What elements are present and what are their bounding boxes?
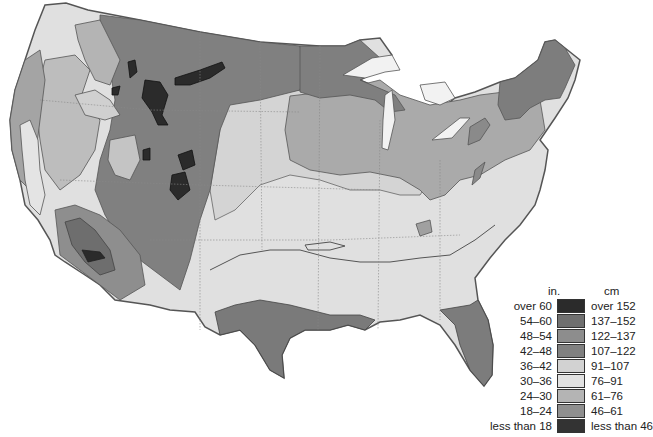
legend-swatch xyxy=(557,344,585,358)
legend-cm-label: 76–91 xyxy=(591,374,623,389)
legend-swatch xyxy=(557,374,585,388)
legend-swatch xyxy=(557,389,585,403)
legend-header-cm: cm xyxy=(604,285,619,298)
legend-cm-label: 122–137 xyxy=(591,329,636,344)
legend-in-label: 24–30 xyxy=(520,389,552,404)
legend-in-label: 54–60 xyxy=(520,314,552,329)
legend-swatch xyxy=(557,299,585,313)
legend-in-label: less than 18 xyxy=(490,419,552,434)
legend-swatch xyxy=(557,314,585,328)
legend-cm-label: over 152 xyxy=(591,299,636,314)
legend-cm-label: 46–61 xyxy=(591,404,623,419)
legend-row: 36–42 91–107 xyxy=(494,359,651,374)
legend-in-label: over 60 xyxy=(514,299,552,314)
legend-header-in: in. xyxy=(548,285,560,298)
legend-swatch xyxy=(557,359,585,373)
legend-in-label: 36–42 xyxy=(520,359,552,374)
legend-row: 54–60 137–152 xyxy=(494,314,651,329)
legend-row: 48–54 122–137 xyxy=(494,329,651,344)
legend-row: over 60 over 152 xyxy=(494,299,651,314)
legend-row: 30–36 76–91 xyxy=(494,374,651,389)
legend-cm-label: less than 46 xyxy=(591,419,653,434)
legend: in. cm over 60 over 152 54–60 137–152 48… xyxy=(494,285,651,437)
legend-row: 24–30 61–76 xyxy=(494,389,651,404)
zone-rockies-dark-6 xyxy=(143,148,150,160)
legend-cm-label: 107–122 xyxy=(591,344,636,359)
legend-row: less than 18 less than 46 xyxy=(494,419,651,434)
legend-in-label: 48–54 xyxy=(520,329,552,344)
legend-in-label: 18–24 xyxy=(520,404,552,419)
legend-cm-label: 91–107 xyxy=(591,359,629,374)
legend-swatch xyxy=(557,419,585,433)
legend-swatch xyxy=(557,329,585,343)
legend-cm-label: 137–152 xyxy=(591,314,636,329)
legend-swatch xyxy=(557,404,585,418)
legend-in-label: 30–36 xyxy=(520,374,552,389)
legend-cm-label: 61–76 xyxy=(591,389,623,404)
legend-row: 18–24 46–61 xyxy=(494,404,651,419)
legend-row: 42–48 107–122 xyxy=(494,344,651,359)
legend-in-label: 42–48 xyxy=(520,344,552,359)
